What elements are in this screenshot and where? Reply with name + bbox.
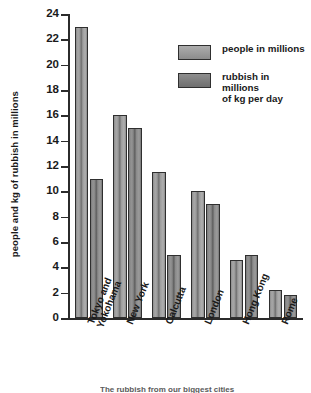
bar-group — [109, 14, 148, 318]
y-tick-mark — [61, 191, 68, 193]
y-tick-mark — [61, 217, 68, 219]
legend-label-line2: of kg per day — [222, 94, 308, 105]
y-tick-mark — [61, 166, 68, 168]
y-tick-mark — [61, 318, 68, 320]
legend-label: people in millions — [222, 44, 305, 55]
y-tick-mark — [61, 267, 68, 269]
y-tick-mark — [61, 115, 68, 117]
y-tick-label: 16 — [46, 110, 59, 122]
chart-legend: people in millionsrubbish in millionsof … — [178, 44, 308, 117]
bar-group — [70, 14, 109, 318]
y-tick-label: 2 — [53, 287, 59, 299]
y-tick-label: 20 — [46, 59, 59, 71]
y-tick-label: 12 — [46, 160, 59, 172]
legend-swatch-people — [178, 45, 211, 60]
figure-caption: The rubbish from our biggest cities — [100, 386, 311, 393]
y-tick-label: 10 — [46, 186, 59, 198]
y-tick-label: 4 — [53, 262, 59, 274]
y-tick-label: 14 — [46, 135, 59, 147]
y-tick-label: 22 — [46, 34, 59, 46]
y-tick-mark — [61, 39, 68, 41]
y-tick-mark — [61, 65, 68, 67]
y-tick-mark — [61, 242, 68, 244]
y-tick-label: 0 — [53, 312, 59, 324]
y-tick-label: 8 — [53, 211, 59, 223]
bar-people — [269, 290, 283, 318]
legend-label-line1: people in millions — [222, 43, 305, 54]
x-axis-labels: Tokyo andYokohamaNew YorkCalcuttaLondonH… — [68, 322, 311, 382]
legend-item: rubbish in millionsof kg per day — [178, 72, 308, 105]
y-tick-mark — [61, 90, 68, 92]
y-tick-mark — [61, 14, 68, 16]
y-tick-mark — [61, 141, 68, 143]
bar-people — [75, 27, 89, 318]
y-axis-title: people and kg of rubbish in millions — [4, 58, 26, 290]
bar-people — [191, 191, 205, 318]
y-axis-title-label: people and kg of rubbish in millions — [10, 91, 20, 257]
y-tick-label: 24 — [46, 8, 59, 20]
y-tick-mark — [61, 293, 68, 295]
y-tick-label: 18 — [46, 84, 59, 96]
bar-people — [230, 260, 244, 318]
legend-label-line1: rubbish in millions — [222, 71, 269, 93]
legend-label: rubbish in millionsof kg per day — [222, 72, 308, 105]
legend-item: people in millions — [178, 44, 308, 60]
legend-swatch-rubbish — [178, 73, 211, 88]
bar-people — [152, 172, 166, 318]
y-tick-label: 6 — [53, 236, 59, 248]
